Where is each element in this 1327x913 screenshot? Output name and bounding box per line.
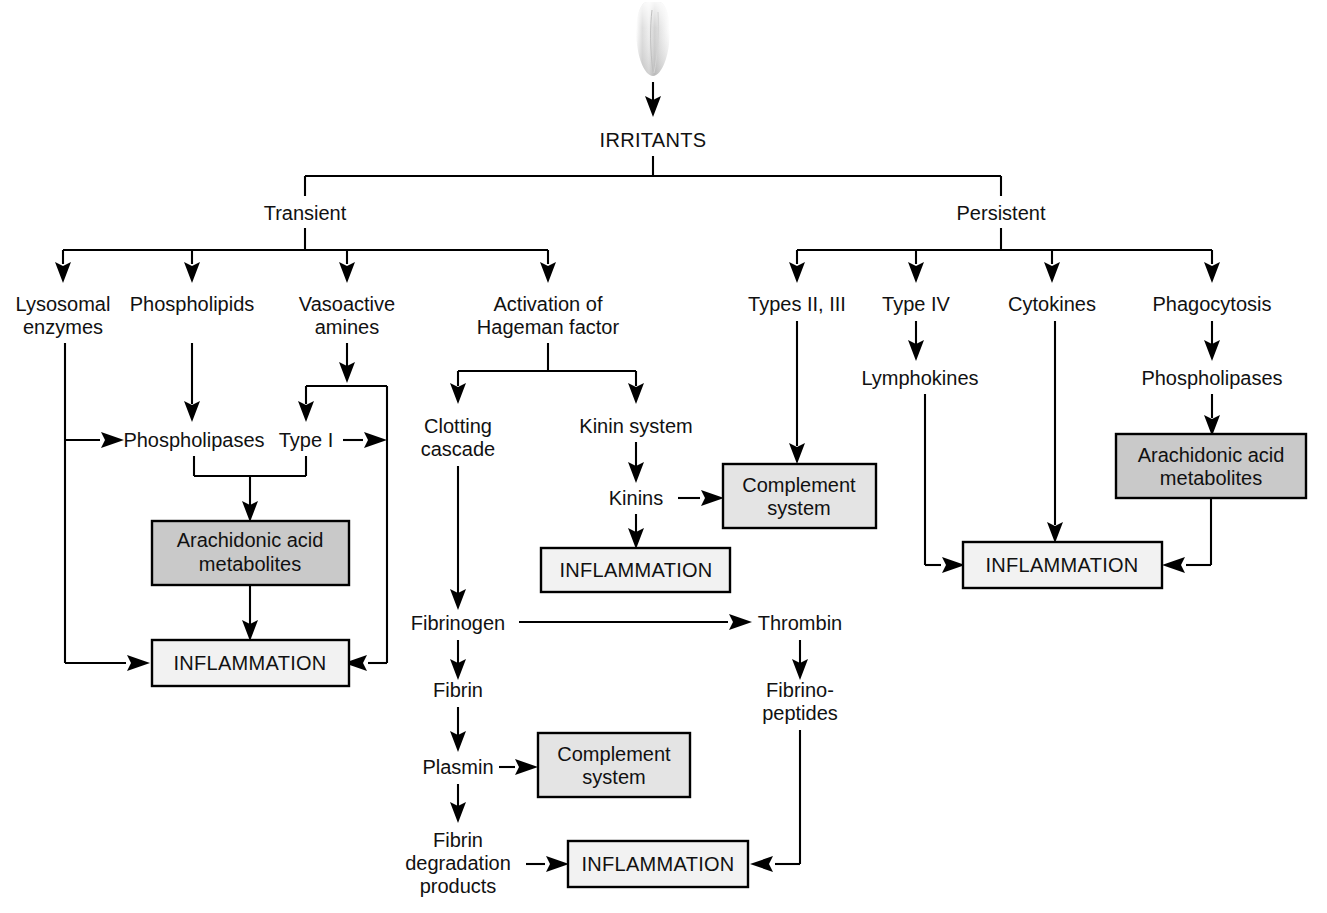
branch-label-persistent: Persistent [957, 202, 1046, 224]
transient-distribution [55, 228, 556, 283]
inflammation-pathway-diagram: IRRITANTS Transient Persistent [0, 0, 1327, 913]
node-fibrinogen: Fibrinogen [411, 612, 506, 634]
node-fibrinopeptides-line1: Fibrino- [766, 679, 834, 701]
node-lymphokines: Lymphokines [861, 367, 978, 389]
box-complement-upper-line1: Complement [742, 474, 856, 496]
box-inflammation-kinin-label: INFLAMMATION [559, 559, 712, 581]
node-clotting-cascade: Clotting cascade [421, 415, 496, 460]
edge-lysosomal-to-inflammation [65, 343, 150, 671]
node-type-iv: Type IV [882, 293, 950, 315]
edge-plasmin-to-complement [499, 759, 538, 775]
node-fdp-line2: degradation [405, 852, 511, 874]
box-arachidonic-right-line2: metabolites [1160, 467, 1262, 489]
node-lysosomal-enzymes: Lysosomal enzymes [16, 293, 111, 338]
brush-tip-icon [636, 2, 670, 76]
edge-fibrinogen-to-fibrin [450, 640, 466, 680]
node-fdp-line1: Fibrin [433, 829, 483, 851]
edge-phagocytosis-to-phospholipases [1204, 321, 1220, 361]
node-clotting-cascade-line1: Clotting [424, 415, 492, 437]
flowchart-page: IRRITANTS Transient Persistent [0, 0, 1327, 913]
edge-arachidonic-right-to-inflammation [1162, 498, 1211, 573]
edge-type-i-to-rail [343, 432, 387, 448]
edge-fibrinopeptides-to-inflammation-bottom [750, 730, 800, 872]
node-lysosomal-enzymes-line1: Lysosomal [16, 293, 111, 315]
hageman-split [450, 343, 644, 404]
box-arachidonic-right-line1: Arachidonic acid [1138, 444, 1285, 466]
node-cytokines: Cytokines [1008, 293, 1096, 315]
edge-fibrin-to-plasmin [450, 707, 466, 752]
box-complement-system-lower: Complement system [538, 733, 690, 797]
node-hageman-line1: Activation of [494, 293, 603, 315]
node-phospholipases-right: Phospholipases [1141, 367, 1282, 389]
node-fdp-line3: products [420, 875, 497, 897]
edge-lymphokines-to-inflammation-right [925, 394, 965, 573]
root-split [305, 156, 1001, 196]
branch-label-transient: Transient [264, 202, 347, 224]
edge-kinins-to-inflammation [628, 514, 644, 549]
box-inflammation-left: INFLAMMATION [152, 640, 349, 686]
node-kinins: Kinins [609, 487, 663, 509]
node-lysosomal-enzymes-line2: enzymes [23, 316, 103, 338]
node-phospholipids: Phospholipids [130, 293, 255, 315]
node-hageman-activation: Activation of Hageman factor [477, 293, 620, 338]
edge-arachidonic-to-inflammation-left [242, 585, 258, 641]
node-clotting-cascade-line2: cascade [421, 438, 496, 460]
edge-phospholipids-to-phospholipases [184, 343, 200, 422]
edge-fibrinogen-to-thrombin [519, 614, 752, 630]
node-plasmin: Plasmin [422, 756, 493, 778]
box-arachidonic-left-line2: metabolites [199, 553, 301, 575]
edge-plasmin-to-fdp [450, 784, 466, 823]
edge-kinins-to-complement [678, 490, 724, 506]
box-complement-upper-line2: system [767, 497, 830, 519]
box-complement-lower-line2: system [582, 766, 645, 788]
edge-clotting-to-fibrinogen [450, 466, 466, 610]
box-inflammation-right: INFLAMMATION [963, 542, 1162, 588]
box-arachidonic-acid-left: Arachidonic acid metabolites [152, 521, 349, 585]
box-arachidonic-acid-right: Arachidonic acid metabolites [1116, 434, 1306, 498]
edge-types-to-complement [789, 321, 805, 464]
edge-cytokines-to-inflammation-right [1047, 321, 1063, 543]
node-phagocytosis: Phagocytosis [1153, 293, 1272, 315]
edge-merge-to-arachidonic-left [194, 456, 306, 522]
box-inflammation-right-label: INFLAMMATION [985, 554, 1138, 576]
node-phospholipids-line1: Phospholipids [130, 293, 255, 315]
node-types-ii-iii: Types II, III [748, 293, 846, 315]
edge-type-iv-to-lymphokines [908, 321, 924, 361]
node-vasoactive-amines-line1: Vasoactive [299, 293, 395, 315]
box-inflammation-kinin: INFLAMMATION [541, 548, 730, 592]
box-complement-lower-line1: Complement [557, 743, 671, 765]
node-fibrinopeptides-line2: peptides [762, 702, 838, 724]
edge-kinin-system-to-kinins [628, 442, 644, 483]
node-vasoactive-amines: Vasoactive amines [299, 293, 395, 338]
node-thrombin: Thrombin [758, 612, 842, 634]
node-type-i: Type I [279, 429, 333, 451]
root-label: IRRITANTS [600, 129, 707, 151]
node-vasoactive-amines-line2: amines [315, 316, 379, 338]
edge-phospholipases-to-arachidonic-right [1204, 394, 1220, 436]
node-fibrin: Fibrin [433, 679, 483, 701]
edge-fdp-to-inflammation-bottom [526, 856, 569, 872]
node-fibrinopeptides: Fibrino- peptides [762, 679, 838, 724]
persistent-distribution [789, 228, 1220, 283]
edge-vasoactive-split [298, 343, 387, 663]
node-kinin-system: Kinin system [579, 415, 692, 437]
box-complement-system-upper: Complement system [723, 464, 876, 528]
box-inflammation-left-label: INFLAMMATION [173, 652, 326, 674]
box-arachidonic-left-line1: Arachidonic acid [177, 529, 324, 551]
node-fibrin-degradation-products: Fibrin degradation products [405, 829, 511, 897]
node-phospholipases-left: Phospholipases [123, 429, 264, 451]
node-hageman-line2: Hageman factor [477, 316, 620, 338]
box-inflammation-bottom: INFLAMMATION [568, 841, 748, 887]
box-inflammation-bottom-label: INFLAMMATION [581, 853, 734, 875]
edge-rail-to-inflammation-left [344, 655, 387, 671]
root-arrow [645, 82, 661, 117]
edge-thrombin-to-fibrinopeptides [792, 640, 808, 680]
